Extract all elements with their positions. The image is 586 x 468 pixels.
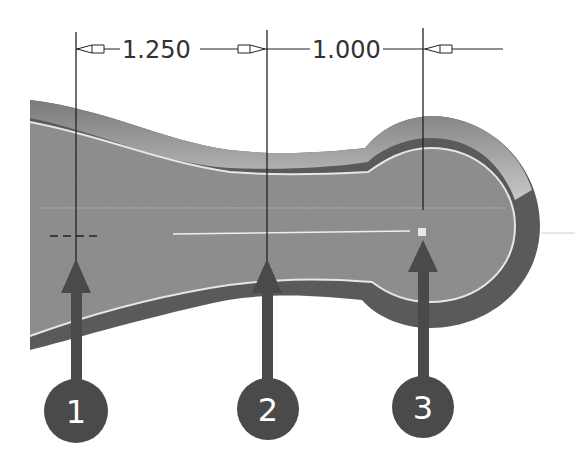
arrowhead-icon [425,45,452,53]
dimension-value-1: 1.250 [122,36,191,64]
arrowhead-icon [238,45,265,53]
dimension-line: 1.250 1.000 [76,36,503,64]
part-profile [0,80,575,380]
callout-number-1: 1 [66,393,86,431]
arrowhead-icon [77,45,104,53]
arc-center-point [418,228,426,236]
diagram-canvas: 1.250 1.000 1 2 3 [0,0,586,468]
left-fade [0,80,120,380]
dimension-value-2: 1.000 [312,36,381,64]
callout-number-3: 3 [413,389,433,427]
callout-number-2: 2 [258,391,278,429]
